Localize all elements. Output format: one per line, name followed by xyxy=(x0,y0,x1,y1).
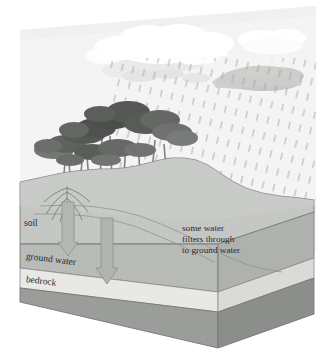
groundwater-diagram: soil ground water bedrock some water fil… xyxy=(0,0,324,358)
label-soil-text: soil xyxy=(24,218,38,228)
cloud-white-right-icon xyxy=(238,29,306,54)
callout-line-2: filters through xyxy=(182,234,235,244)
diagram-canvas: soil ground water bedrock some water fil… xyxy=(0,0,324,358)
callout-line-3: to ground water xyxy=(182,245,240,255)
callout-line-1: some water xyxy=(182,223,224,233)
label-soil: soil xyxy=(24,218,38,228)
